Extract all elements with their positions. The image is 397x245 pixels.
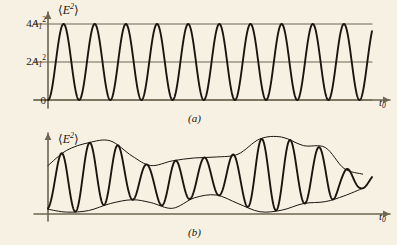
y-tick-label-4a1sq: 4A12 [2,18,46,29]
y-tick-2a1sq-sup: 2 [42,53,46,62]
y-tick-2a1sq-var: A [32,55,39,67]
y-tick-label-zero: 0 [2,95,46,106]
panel-b-caption: (b) [188,227,201,238]
panel-b-xlabel-sub: 0 [382,215,386,224]
panel-b-ylabel-close: ⟩ [74,132,79,146]
panel-b-y-axis-label: ⟨E2⟩ [58,133,79,145]
panel-a-xlabel-sub: 0 [382,101,386,110]
y-tick-4a1sq-var: A [32,17,39,29]
panel-b: ⟨E2⟩ t0 (b) [0,125,397,245]
panel-b-ylabel-var: E [63,132,70,146]
coherence-figure: 4A12 2A12 0 ⟨E2⟩ t0 (a) ⟨E2⟩ t0 (b) [0,0,397,245]
panel-a-x-axis-label: t0 [379,97,386,108]
y-tick-label-2a1sq: 2A12 [2,56,46,67]
panel-a-plot [0,0,397,130]
panel-a-ylabel-exp: 2 [70,2,74,11]
panel-b-x-axis-label: t0 [379,211,386,222]
panel-a-y-axis-label: ⟨E2⟩ [58,4,79,16]
panel-a-ylabel-close: ⟩ [74,3,79,17]
lower-envelope-curve [48,188,363,212]
y-tick-zero-num: 0 [41,94,47,106]
panel-a-caption: (a) [188,113,201,124]
panel-b-ylabel-exp: 2 [70,131,74,140]
partially-coherent-intensity-curve [48,139,372,212]
panel-a: 4A12 2A12 0 ⟨E2⟩ t0 (a) [0,0,397,130]
y-tick-4a1sq-sup: 2 [42,15,46,24]
panel-a-ylabel-var: E [63,3,70,17]
panel-b-y-axis-arrowhead [45,133,52,140]
